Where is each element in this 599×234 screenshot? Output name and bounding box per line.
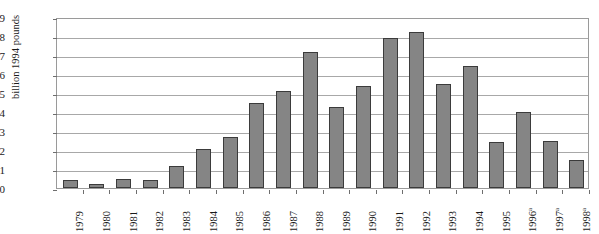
x-tick-label: 1984 [208, 186, 220, 232]
y-tick-label: 5 [0, 89, 5, 99]
bar [489, 142, 504, 188]
bar-chart: billion 1994 pounds 01234567891979198019… [0, 0, 599, 234]
y-tick-mark [53, 19, 57, 20]
bar [436, 84, 451, 188]
x-tick-label: 1981 [128, 186, 140, 232]
y-tick-mark [53, 57, 57, 58]
y-tick-mark [53, 171, 57, 172]
bar [383, 38, 398, 188]
x-tick-label: 1987 [288, 186, 300, 232]
y-tick-label: 1 [0, 165, 5, 175]
x-tick-label: 1994 [474, 186, 486, 232]
bar [516, 112, 531, 188]
x-tick-label: 1996a [527, 186, 539, 232]
x-tick-label: 1995 [501, 186, 513, 232]
y-tick-label: 7 [0, 51, 5, 61]
y-tick-label: 4 [0, 108, 5, 118]
x-tick-label: 1982 [154, 186, 166, 232]
bar [276, 91, 291, 188]
y-tick-label: 3 [0, 127, 5, 137]
gridline [57, 152, 588, 153]
y-tick-label: 2 [0, 146, 5, 156]
gridline [57, 133, 588, 134]
gridline [57, 38, 588, 39]
y-tick-mark [53, 38, 57, 39]
bar [356, 86, 371, 188]
bar [169, 166, 184, 188]
bar [463, 66, 478, 188]
gridline [57, 114, 588, 115]
bar [329, 107, 344, 188]
x-tick-label: 1983 [181, 186, 193, 232]
x-tick-label: 1985 [234, 186, 246, 232]
x-tick-label: 1997a [554, 186, 566, 232]
x-tick-label: 1993 [447, 186, 459, 232]
gridline [57, 171, 588, 172]
y-tick-mark [53, 190, 57, 191]
chart-title [0, 0, 599, 2]
x-tick-label: 1986 [261, 186, 273, 232]
y-tick-mark [53, 114, 57, 115]
y-tick-mark [53, 133, 57, 134]
plot-area [56, 18, 589, 189]
bar [223, 137, 238, 188]
x-tick-label: 1988 [314, 186, 326, 232]
y-tick-mark [53, 152, 57, 153]
bar [543, 141, 558, 188]
bar [569, 160, 584, 189]
x-tick-label: 1990 [367, 186, 379, 232]
gridline [57, 57, 588, 58]
x-tick-label: 1991 [394, 186, 406, 232]
x-tick-label: 1992 [421, 186, 433, 232]
bar [249, 103, 264, 189]
y-tick-label: 8 [0, 32, 5, 42]
x-tick-label: 1998a [581, 186, 593, 232]
bar [303, 52, 318, 188]
y-tick-label: 6 [0, 70, 5, 80]
bar [196, 149, 211, 188]
x-tick-label: 1980 [101, 186, 113, 232]
x-tick-label: 1979 [74, 186, 86, 232]
gridline [57, 76, 588, 77]
gridline [57, 95, 588, 96]
y-tick-mark [53, 95, 57, 96]
y-axis-title: billion 1994 pounds [8, 0, 24, 122]
x-tick-label: 1989 [341, 186, 353, 232]
bar [409, 32, 424, 188]
y-tick-label: 0 [0, 184, 5, 194]
y-tick-label: 9 [0, 13, 5, 23]
y-tick-mark [53, 76, 57, 77]
